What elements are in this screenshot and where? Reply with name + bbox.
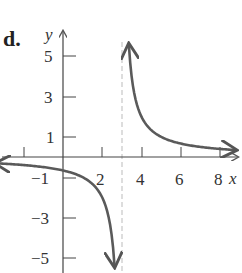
y-tick-label: 1 — [46, 128, 55, 147]
y-axis-label: y — [43, 25, 53, 44]
x-tick-label: 2 — [96, 170, 105, 189]
y-tick-label: 5 — [44, 47, 53, 66]
x-tick-label: 4 — [136, 170, 145, 189]
x-axis-label: x — [228, 169, 237, 188]
curve-right-branch — [129, 45, 236, 150]
panel-label: d. — [3, 26, 21, 51]
y-tick-label: −5 — [31, 249, 49, 268]
y-tick-label: −3 — [31, 209, 49, 228]
chart: d. 2 4 6 8 x 5 3 1 −1 −3 −5 y — [0, 0, 242, 273]
y-tick-label: −1 — [31, 169, 49, 188]
x-tick-label: 6 — [175, 170, 184, 189]
x-tick-label: 8 — [214, 170, 223, 189]
y-tick-label: 3 — [44, 88, 53, 107]
